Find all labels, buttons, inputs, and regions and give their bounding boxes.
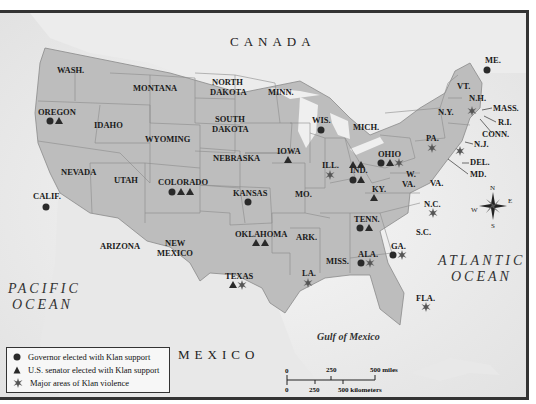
label-wva-1: W. — [406, 169, 416, 179]
scale-km-0: 0 — [285, 386, 289, 394]
label-oklahoma: OKLAHOMA — [235, 229, 288, 239]
compass-s: S — [491, 222, 495, 230]
legend-label-violence: Major areas of Klan violence — [30, 378, 129, 388]
label-va: VA. — [430, 178, 443, 188]
governor-symbol — [47, 118, 54, 125]
label-la: LA. — [302, 268, 316, 278]
map-legend: Governor elected with Klan support U.S. … — [6, 347, 170, 393]
governor-symbol — [169, 189, 176, 196]
label-pacific-2: OCEAN — [12, 297, 73, 312]
label-nh: N.H. — [469, 93, 486, 103]
starburst-icon — [13, 378, 23, 388]
label-conn: CONN. — [482, 129, 509, 139]
label-ny: N.Y. — [438, 107, 454, 117]
legend-label-governor: Governor elected with Klan support — [28, 352, 150, 362]
label-nevada: NEVADA — [61, 167, 97, 177]
governor-symbol — [350, 177, 357, 184]
label-nj: N.J. — [474, 139, 489, 149]
label-ky: KY. — [372, 184, 386, 194]
legend-label-senator: U.S. senator elected with Klan support — [28, 365, 159, 375]
governor-symbol — [318, 127, 325, 134]
label-ill: ILL. — [322, 160, 339, 170]
compass-n: N — [490, 184, 495, 192]
label-newmexico-1: NEW — [165, 238, 186, 248]
label-vt: VT. — [457, 81, 470, 91]
map-frame: CANADA MEXICO PACIFIC OCEAN ATLANTIC OCE… — [0, 10, 529, 400]
label-fla: FLA. — [416, 293, 435, 303]
label-pa: PA. — [426, 133, 439, 143]
label-ala: ALA. — [358, 249, 378, 259]
compass-e: E — [508, 197, 512, 205]
label-texas: TEXAS — [225, 271, 254, 281]
label-del: DEL. — [470, 157, 490, 167]
label-ohio: OHIO — [378, 149, 402, 159]
legend-item-violence: Major areas of Klan violence — [13, 376, 169, 389]
label-mich: MICH. — [353, 122, 379, 132]
label-iowa: IOWA — [277, 146, 301, 156]
label-arizona: ARIZONA — [100, 241, 141, 251]
label-nc: N.C. — [424, 199, 441, 209]
label-ark: ARK. — [296, 232, 317, 242]
label-utah: UTAH — [114, 175, 138, 185]
governor-symbol — [358, 260, 365, 267]
label-mass: MASS. — [493, 103, 519, 113]
label-wis: WIS. — [312, 115, 331, 125]
scale-mi-250: 250 — [326, 366, 337, 374]
label-wash: WASH. — [57, 65, 84, 75]
scale-km-500: 500 kilometers — [338, 386, 382, 394]
scale-mi-0: 0 — [285, 367, 289, 375]
label-sc: S.C. — [416, 227, 431, 237]
label-sd-2: DAKOTA — [212, 124, 250, 134]
label-nebraska: NEBRASKA — [213, 153, 261, 163]
label-wyoming: WYOMING — [145, 134, 191, 144]
label-ri: R.I. — [498, 117, 512, 127]
label-ga: GA. — [391, 241, 406, 251]
governor-symbol — [390, 252, 397, 259]
label-sd-1: SOUTH — [215, 114, 245, 124]
label-gulf: Gulf of Mexico — [317, 331, 380, 342]
label-miss: MISS. — [326, 256, 349, 266]
label-mexico: MEXICO — [178, 347, 259, 362]
legend-item-governor: Governor elected with Klan support — [13, 350, 169, 363]
governor-symbol — [245, 199, 252, 206]
label-colorado: COLORADO — [158, 177, 208, 187]
label-newmexico-2: MEXICO — [157, 248, 193, 258]
label-mo: MO. — [295, 189, 312, 199]
label-canada: CANADA — [230, 34, 316, 49]
label-md: MD. — [470, 169, 486, 179]
triangle-icon — [13, 366, 21, 374]
label-idaho: IDAHO — [94, 120, 123, 130]
label-minn: MINN. — [268, 87, 294, 97]
label-wva-2: VA. — [402, 179, 415, 189]
governor-symbol — [357, 225, 364, 232]
scale-km-250: 250 — [309, 386, 320, 394]
label-nd-2: DAKOTA — [210, 87, 248, 97]
label-montana: MONTANA — [133, 83, 178, 93]
governor-symbol — [378, 160, 385, 167]
label-pacific-1: PACIFIC — [7, 281, 81, 296]
label-atlantic-1: ATLANTIC — [437, 253, 525, 268]
label-kansas: KANSAS — [233, 188, 268, 198]
label-atlantic-2: OCEAN — [451, 269, 512, 284]
label-nd-1: NORTH — [212, 77, 243, 87]
label-oregon: OREGON — [38, 107, 77, 117]
circle-icon — [13, 353, 21, 361]
label-me: ME. — [485, 55, 501, 65]
compass-w: W — [471, 206, 478, 214]
governor-symbol — [43, 204, 50, 211]
label-tenn: TENN. — [354, 214, 380, 224]
legend-item-senator: U.S. senator elected with Klan support — [13, 363, 169, 376]
us-map: CANADA MEXICO PACIFIC OCEAN ATLANTIC OCE… — [0, 13, 526, 397]
label-calif: CALIF. — [33, 191, 61, 201]
governor-symbol — [484, 67, 491, 74]
scale-mi-500: 500 miles — [370, 366, 398, 374]
